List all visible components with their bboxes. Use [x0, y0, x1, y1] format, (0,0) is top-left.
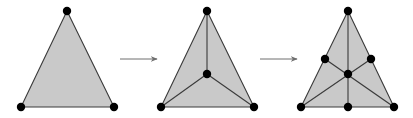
vertex-dot — [110, 103, 118, 111]
stage-midpoint-subdivision — [297, 7, 398, 111]
vertex-dot — [157, 103, 165, 111]
diagram-stages — [17, 7, 398, 111]
vertex-dot — [297, 103, 305, 111]
vertex-dot — [344, 7, 352, 15]
vertex-dot — [203, 7, 211, 15]
vertex-dot — [344, 70, 352, 78]
vertex-dot — [203, 70, 211, 78]
vertex-dot — [390, 103, 398, 111]
triangle-outline — [21, 11, 114, 107]
vertex-dot — [344, 103, 352, 111]
stage-centroid-subdivision — [157, 7, 258, 111]
stage-original-triangle — [17, 7, 118, 111]
vertex-dot — [63, 7, 71, 15]
vertex-dot — [321, 55, 329, 63]
vertex-dot — [250, 103, 258, 111]
vertex-dot — [367, 55, 375, 63]
triangle-subdivision-diagram — [0, 0, 413, 118]
vertex-dot — [17, 103, 25, 111]
